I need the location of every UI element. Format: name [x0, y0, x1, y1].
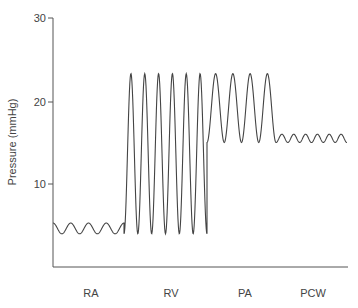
category-pcw: PCW: [300, 287, 326, 299]
category-pa: PA: [238, 287, 253, 299]
y-tick-30: 30: [34, 12, 46, 24]
pressure-waveform-chart: 30 20 10 Pressure (mmHg) RA RV PA PCW: [0, 0, 358, 308]
category-ra: RA: [83, 287, 99, 299]
y-axis-label: Pressure (mmHg): [6, 99, 18, 186]
pressure-waveform: [53, 74, 347, 234]
category-rv: RV: [163, 287, 179, 299]
y-tick-10: 10: [34, 178, 46, 190]
y-tick-20: 20: [34, 96, 46, 108]
